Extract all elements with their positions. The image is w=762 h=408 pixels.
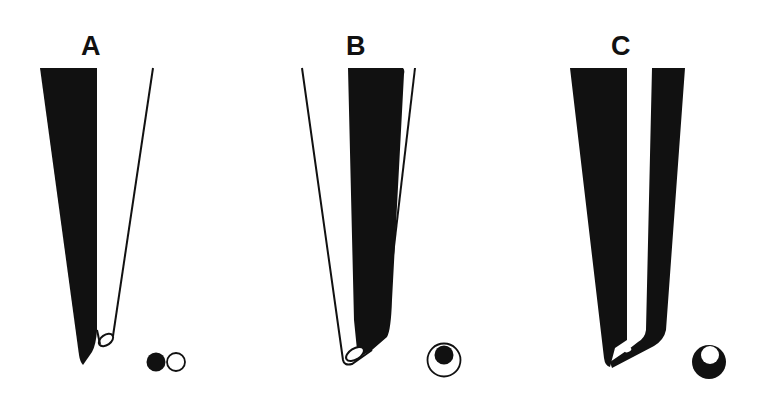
panel-a [40,68,185,372]
pipette-c-left-wedge-icon [570,68,627,367]
legend-b-inner-filled-circle-icon [435,346,454,365]
pipette-a-solid-wedge-icon [40,68,97,365]
figure: A B C [0,0,762,408]
pipette-b-tip-opening-icon [344,344,367,364]
diagram-canvas [0,0,762,408]
panel-c [570,68,726,379]
legend-a-filled-circle-icon [147,353,166,372]
legend-a-open-circle-icon [167,353,185,371]
legend-c-inner-open-circle-icon [701,346,719,364]
pipette-b-solid-core-icon [348,68,404,356]
panel-b [302,68,461,377]
pipette-a-thin-wall-icon [113,68,153,336]
